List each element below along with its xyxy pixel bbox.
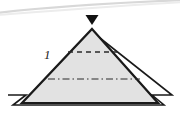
edge-length-label-1: 1 — [44, 48, 51, 61]
scan-curve-artifact — [0, 0, 180, 13]
apex-marker — [86, 15, 99, 25]
pyramid-diagram-svg — [0, 0, 180, 117]
figure-canvas: 1 — [0, 0, 180, 117]
pyramid-body — [22, 29, 158, 103]
